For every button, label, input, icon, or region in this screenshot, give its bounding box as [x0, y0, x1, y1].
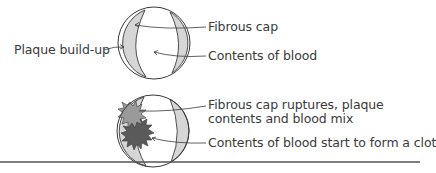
- plaque-buildup-right: [170, 12, 188, 73]
- artery-intact: [104, 7, 206, 79]
- label-rupture-line2: contents and blood mix: [208, 112, 353, 126]
- label-contents-of-blood: Contents of blood: [208, 49, 317, 63]
- leader-fibrous-cap: [135, 25, 206, 28]
- label-fibrous-cap: Fibrous cap: [208, 20, 278, 34]
- label-plaque-buildup: Plaque build-up: [14, 43, 110, 57]
- label-clot-forming: Contents of blood start to form a clot: [208, 136, 436, 150]
- label-rupture-line1: Fibrous cap ruptures, plaque: [208, 98, 384, 112]
- artery-ruptured: [117, 95, 206, 167]
